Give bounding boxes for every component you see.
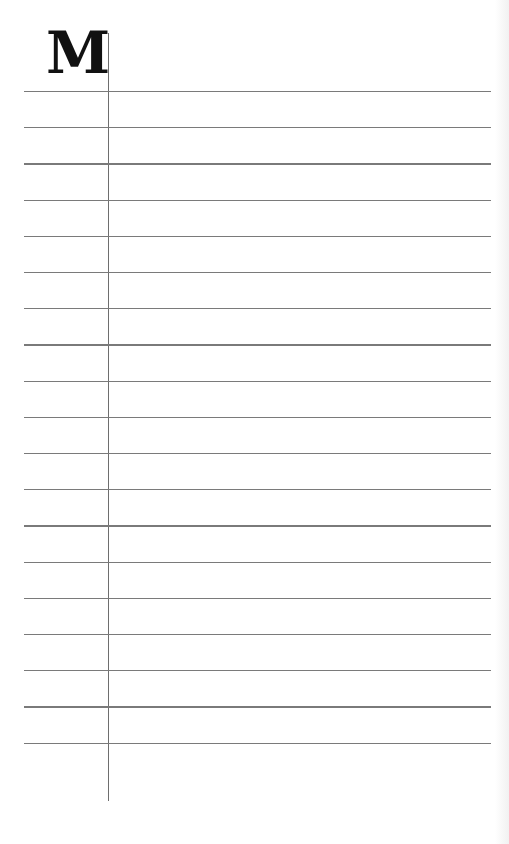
ruled-line [24,344,491,345]
ruled-line [24,743,491,744]
ruled-line [24,562,491,563]
ruled-line [24,453,491,454]
initial-letter-text: M [46,19,110,87]
ruled-line [24,236,491,237]
ruled-line [24,670,491,671]
ruled-line [24,163,491,164]
ruled-line [24,91,491,92]
page-edge-shadow [495,0,509,844]
ruled-line [24,598,491,599]
decorative-initial-letter: M [46,20,106,90]
ruled-line [24,706,491,707]
ruled-line [24,525,491,526]
ruled-line [24,634,491,635]
ruled-line [24,381,491,382]
ruled-line [24,489,491,490]
ruled-line [24,272,491,273]
ruled-line [24,127,491,128]
ruled-line [24,308,491,309]
ruled-line [24,417,491,418]
ruled-line [24,200,491,201]
notebook-page: M [0,0,509,844]
